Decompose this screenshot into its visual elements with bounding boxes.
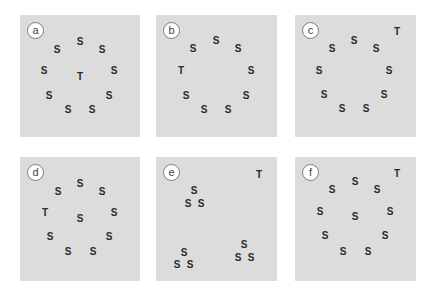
distractor-letter: S (99, 45, 106, 55)
distractor-letter: S (339, 104, 346, 114)
distractor-letter: S (374, 185, 381, 195)
target-letter: T (394, 169, 400, 179)
distractor-letter: S (322, 231, 329, 241)
distractor-letter: S (352, 177, 359, 187)
distractor-letter: S (235, 253, 242, 263)
distractor-letter: S (352, 212, 359, 222)
distractor-letter: S (183, 91, 190, 101)
distractor-letter: S (329, 44, 336, 54)
distractor-letter: S (351, 36, 358, 46)
panel-label-badge: d (27, 164, 44, 181)
distractor-letter: S (190, 44, 197, 54)
distractor-letter: S (77, 179, 84, 189)
distractor-letter: S (340, 247, 347, 257)
distractor-letter: S (54, 45, 61, 55)
distractor-letter: S (317, 207, 324, 217)
distractor-letter: S (386, 66, 393, 76)
distractor-letter: S (387, 207, 394, 217)
target-letter: T (256, 170, 262, 180)
distractor-letter: S (174, 260, 181, 270)
distractor-letter: S (187, 260, 194, 270)
distractor-letter: S (65, 247, 72, 257)
distractor-letter: S (77, 214, 84, 224)
distractor-letter: S (365, 247, 372, 257)
panel-label-badge: c (302, 22, 319, 39)
panel-label-badge: e (163, 164, 180, 181)
distractor-letter: S (181, 248, 188, 258)
distractor-letter: S (106, 232, 113, 242)
distractor-letter: S (382, 231, 389, 241)
distractor-letter: S (41, 66, 48, 76)
distractor-letter: S (201, 105, 208, 115)
distractor-letter: S (111, 208, 118, 218)
distractor-letter: S (65, 105, 72, 115)
distractor-letter: S (89, 105, 96, 115)
distractor-letter: S (248, 253, 255, 263)
distractor-letter: S (46, 91, 53, 101)
distractor-letter: S (55, 187, 62, 197)
distractor-letter: S (213, 36, 220, 46)
target-letter: T (42, 208, 48, 218)
panel-label-badge: b (163, 22, 180, 39)
distractor-letter: S (363, 104, 370, 114)
distractor-letter: S (90, 247, 97, 257)
distractor-letter: S (99, 187, 106, 197)
panel-label-badge: a (27, 22, 44, 39)
distractor-letter: S (106, 91, 113, 101)
distractor-letter: S (373, 44, 380, 54)
target-letter: T (178, 66, 184, 76)
distractor-letter: S (248, 66, 255, 76)
distractor-letter: S (191, 186, 198, 196)
distractor-letter: S (316, 66, 323, 76)
distractor-letter: S (241, 240, 248, 250)
distractor-letter: S (235, 44, 242, 54)
distractor-letter: S (198, 199, 205, 209)
distractor-letter: S (77, 37, 84, 47)
distractor-letter: S (111, 66, 118, 76)
distractor-letter: S (47, 232, 54, 242)
target-letter: T (394, 27, 400, 37)
distractor-letter: S (329, 185, 336, 195)
distractor-letter: S (381, 90, 388, 100)
distractor-letter: S (185, 199, 192, 209)
distractor-letter: S (225, 105, 232, 115)
target-letter: T (77, 72, 83, 82)
distractor-letter: S (243, 91, 250, 101)
panel-label-badge: f (302, 164, 319, 181)
distractor-letter: S (321, 90, 328, 100)
